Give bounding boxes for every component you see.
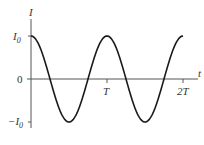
y-axis-label: I bbox=[28, 6, 34, 18]
current-vs-time-diagram: I t I0 0 −I0 T 2T bbox=[0, 0, 204, 145]
neg-i0-label: −I0 bbox=[8, 115, 23, 130]
x-axis-label: t bbox=[198, 67, 202, 79]
tick-label-2T: 2T bbox=[177, 85, 190, 97]
i0-label: I0 bbox=[12, 30, 21, 45]
zero-label: 0 bbox=[17, 73, 23, 85]
tick-label-T: T bbox=[103, 85, 110, 97]
